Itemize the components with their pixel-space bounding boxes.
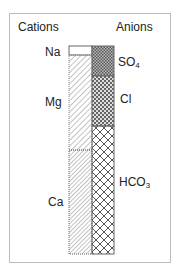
cl-label: Cl [120, 93, 131, 105]
ion-bar-chart [0, 0, 182, 271]
na-label: Na [45, 46, 60, 58]
mg-label: Mg [45, 96, 62, 108]
ca-label: Ca [48, 196, 63, 208]
na-segment [69, 46, 92, 55]
hco3-segment [92, 126, 114, 254]
so4-label: SO4 [118, 56, 140, 72]
cl-segment [92, 76, 114, 126]
cation-column [69, 46, 92, 254]
hco3-label: HCO3 [119, 176, 150, 192]
anion-column [92, 46, 114, 254]
mg-segment [69, 55, 92, 150]
so4-segment [92, 46, 114, 76]
ca-segment [69, 150, 92, 254]
